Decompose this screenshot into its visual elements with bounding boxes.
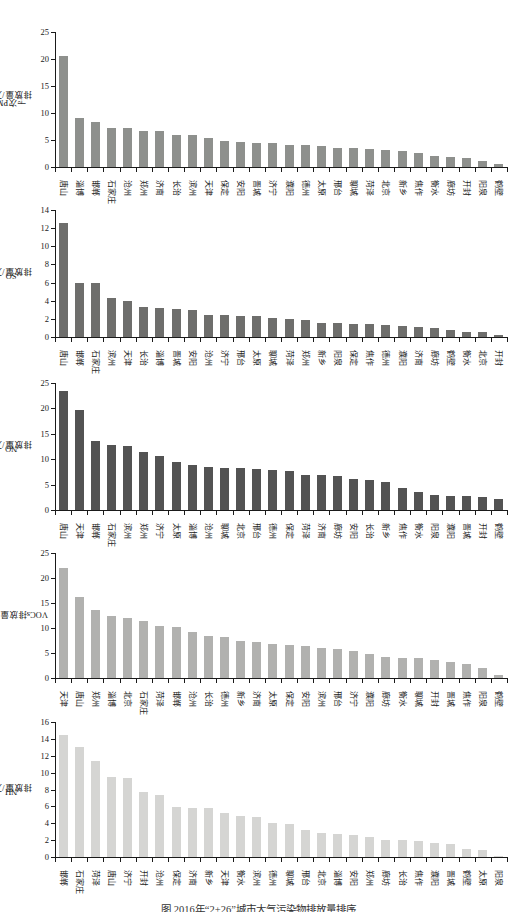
bar [220, 315, 229, 337]
y-tick-mark [51, 823, 55, 824]
y-tick-label: 10 [17, 768, 49, 778]
bar [172, 462, 181, 510]
bar [462, 158, 471, 167]
bar [333, 323, 342, 337]
bar [155, 626, 164, 678]
x-tick-mark [410, 858, 411, 862]
bar [446, 330, 455, 337]
bar [139, 131, 148, 167]
x-tick-mark [281, 679, 282, 683]
bar [333, 649, 342, 678]
bar [59, 568, 68, 679]
x-tick-mark [184, 338, 185, 342]
x-tick-mark [442, 511, 443, 515]
x-tick-mark [297, 168, 298, 172]
bar [172, 309, 181, 337]
x-tick-mark [394, 338, 395, 342]
y-tick-mark [51, 86, 55, 87]
x-tick-mark [329, 858, 330, 862]
x-tick-mark [265, 679, 266, 683]
x-tick-mark [329, 338, 330, 342]
y-tick-label: 14 [17, 734, 49, 744]
y-tick-label: 16 [17, 717, 49, 727]
bar [123, 128, 132, 167]
bar [220, 637, 229, 679]
x-tick-mark [329, 511, 330, 515]
x-tick-mark [55, 338, 56, 342]
bar [317, 648, 326, 678]
x-tick-mark [346, 511, 347, 515]
x-tick-mark [168, 511, 169, 515]
x-tick-mark [71, 511, 72, 515]
x-tick-mark [507, 168, 508, 172]
y-tick-label: 15 [17, 598, 49, 608]
x-tick-mark [233, 168, 234, 172]
bar [220, 468, 229, 510]
bar [430, 660, 439, 679]
bar [139, 307, 148, 337]
bar [478, 668, 487, 678]
bar [204, 636, 213, 678]
x-tick-mark [249, 168, 250, 172]
bar [333, 834, 342, 857]
bar [172, 627, 181, 679]
x-tick-mark [329, 679, 330, 683]
bar [414, 841, 423, 857]
bar [446, 844, 455, 857]
y-tick-mark [51, 210, 55, 211]
bar [349, 324, 358, 337]
x-tick-mark [281, 168, 282, 172]
y-tick-label: 5 [17, 648, 49, 658]
bar [172, 807, 181, 857]
y-tick-mark [51, 408, 55, 409]
x-tick-mark [200, 858, 201, 862]
x-tick-mark [152, 679, 153, 683]
x-tick-mark [297, 338, 298, 342]
x-tick-mark [55, 679, 56, 683]
bar [430, 843, 439, 857]
x-tick-mark [152, 168, 153, 172]
bar [462, 849, 471, 857]
x-tick-mark [378, 338, 379, 342]
y-tick-label: 0 [17, 332, 49, 342]
x-tick-mark [442, 338, 443, 342]
y-tick-label: 2 [17, 314, 49, 324]
bar [381, 657, 390, 678]
x-tick-mark [346, 168, 347, 172]
x-tick-mark [362, 858, 363, 862]
bar [220, 813, 229, 857]
x-tick-mark [120, 168, 121, 172]
bar [494, 164, 503, 167]
x-tick-mark [71, 338, 72, 342]
y-tick-label: 14 [17, 205, 49, 215]
x-tick-mark [313, 858, 314, 862]
bar [155, 795, 164, 857]
x-tick-mark [475, 511, 476, 515]
bar [268, 143, 277, 167]
bar [414, 153, 423, 167]
x-tick-mark [459, 168, 460, 172]
y-tick-label: 20 [17, 403, 49, 413]
x-tick-mark [184, 168, 185, 172]
bar [398, 840, 407, 857]
y-tick-mark [51, 485, 55, 486]
x-tick-mark [136, 679, 137, 683]
bar [462, 332, 471, 337]
x-tick-mark [103, 168, 104, 172]
x-tick-mark [233, 511, 234, 515]
bar [107, 445, 116, 510]
x-tick-mark [297, 679, 298, 683]
bar [381, 150, 390, 167]
bar [252, 817, 261, 858]
x-tick-mark [281, 511, 282, 515]
bar [75, 283, 84, 337]
bar [123, 301, 132, 337]
x-tick-mark [216, 679, 217, 683]
x-tick-mark [410, 338, 411, 342]
x-tick-mark [249, 679, 250, 683]
x-tick-mark [362, 168, 363, 172]
y-tick-label: 15 [17, 429, 49, 439]
x-tick-mark [168, 679, 169, 683]
x-tick-mark [216, 168, 217, 172]
bar [59, 735, 68, 857]
